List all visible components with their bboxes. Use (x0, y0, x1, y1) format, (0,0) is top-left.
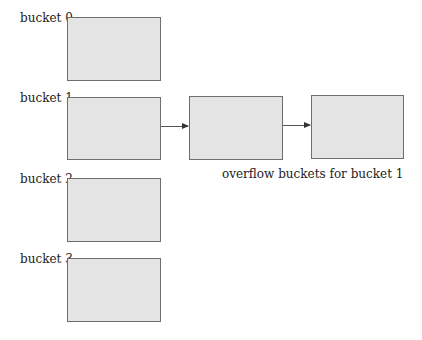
bucket-1-box (67, 97, 161, 160)
bucket-3-box (67, 258, 161, 322)
bucket-2-label: bucket 2 (20, 172, 73, 186)
bucket-0-label: bucket 0 (20, 11, 73, 25)
overflow-bucket-1-box (189, 96, 283, 160)
overflow-bucket-2-box (311, 95, 404, 159)
bucket-0-box (67, 17, 161, 81)
bucket-2-box (67, 178, 161, 242)
bucket-3-label: bucket 3 (20, 252, 73, 266)
arrow-to-overflow-2 (283, 125, 310, 126)
overflow-caption: overflow buckets for bucket 1 (222, 167, 403, 181)
hash-bucket-overflow-diagram: bucket 0 bucket 1 bucket 2 bucket 3 over… (0, 0, 422, 340)
arrow-to-overflow-1 (161, 126, 188, 127)
bucket-1-label: bucket 1 (20, 91, 73, 105)
